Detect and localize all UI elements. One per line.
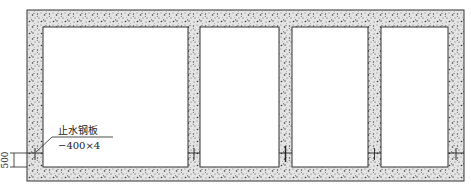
dimension-line <box>10 153 27 167</box>
cell-4 <box>381 27 448 167</box>
waterstop-spec: −400×4 <box>58 140 100 151</box>
box-culvert-section-drawing: 止水钢板 −400×4 500 <box>0 0 471 187</box>
cell-2 <box>200 27 279 167</box>
dimension-value: 500 <box>0 151 10 168</box>
waterstop-label: 止水钢板 <box>58 124 98 136</box>
cell-3 <box>292 27 368 167</box>
